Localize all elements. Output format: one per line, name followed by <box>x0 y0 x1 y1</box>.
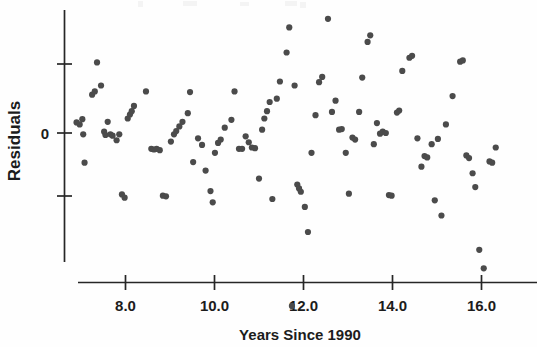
x-axis-title: Years Since 1990 <box>239 326 361 343</box>
data-point <box>187 89 193 95</box>
data-point <box>356 109 362 115</box>
data-point <box>298 189 304 195</box>
data-point <box>435 136 441 142</box>
data-point <box>207 188 213 194</box>
data-point <box>157 147 163 153</box>
data-point <box>81 160 87 166</box>
data-point <box>409 53 415 59</box>
data-point <box>472 184 478 190</box>
data-point <box>199 142 205 148</box>
y-tick-label-zero: 0 <box>41 125 49 142</box>
data-point <box>339 126 345 132</box>
data-point <box>443 121 449 127</box>
data-point <box>269 196 275 202</box>
data-point <box>246 139 252 145</box>
data-point <box>114 137 120 143</box>
data-point <box>292 82 298 88</box>
data-point <box>308 150 314 156</box>
data-point <box>449 93 455 99</box>
data-point <box>252 145 258 151</box>
data-point <box>179 119 185 125</box>
data-point <box>460 57 466 63</box>
data-point <box>277 78 283 84</box>
data-point <box>190 159 196 165</box>
data-point <box>432 197 438 203</box>
data-point <box>424 154 430 160</box>
data-point <box>218 137 224 143</box>
data-point <box>168 138 174 144</box>
data-point <box>195 135 201 141</box>
x-tick-label-8: 8.0 <box>115 297 136 314</box>
data-point <box>367 32 373 38</box>
data-point <box>470 170 476 176</box>
data-point <box>493 144 499 150</box>
data-point <box>131 103 137 109</box>
data-point <box>383 130 389 136</box>
data-point <box>116 131 122 137</box>
data-point <box>414 135 420 141</box>
x-axis: 8.0 10.0 12.0 14.0 16.0 Years Since 1990 <box>78 275 537 343</box>
data-point <box>418 164 424 170</box>
data-point <box>80 131 86 137</box>
x-tick-label-10: 10.0 <box>200 297 229 314</box>
x-tick-label-14: 14.0 <box>378 297 407 314</box>
data-point <box>374 120 380 126</box>
data-point <box>210 199 216 205</box>
data-point <box>261 115 267 121</box>
data-point <box>92 88 98 94</box>
data-point <box>489 160 495 166</box>
data-point <box>228 117 234 123</box>
data-point <box>239 146 245 152</box>
data-point <box>212 150 218 156</box>
data-point <box>481 265 487 271</box>
data-point <box>319 74 325 80</box>
data-point <box>466 155 472 161</box>
data-point <box>346 191 352 197</box>
data-point <box>256 175 262 181</box>
data-point <box>129 108 135 114</box>
data-point <box>289 303 295 309</box>
data-point <box>79 116 85 122</box>
data-point <box>359 74 365 80</box>
y-axis: 0 Residuals <box>5 10 72 262</box>
data-point <box>283 49 289 55</box>
data-point <box>329 109 335 115</box>
data-point <box>316 79 322 85</box>
data-point <box>325 16 331 22</box>
data-point <box>122 195 128 201</box>
data-point <box>396 107 402 113</box>
data-point <box>259 127 265 133</box>
data-point <box>267 99 273 105</box>
y-axis-title: Residuals <box>5 101 24 181</box>
data-point <box>343 150 349 156</box>
data-point <box>143 88 149 94</box>
data-point <box>352 137 358 143</box>
residual-plot-figure: 0 Residuals 8.0 10.0 12.0 14.0 16.0 Year… <box>0 0 537 347</box>
data-point <box>389 193 395 199</box>
data-point <box>399 68 405 74</box>
data-point <box>105 119 111 125</box>
data-point <box>429 141 435 147</box>
data-point <box>286 24 292 30</box>
data-point <box>98 82 104 88</box>
data-point <box>438 212 444 218</box>
data-points-layer <box>73 16 498 309</box>
data-point <box>243 133 249 139</box>
data-point <box>264 108 270 114</box>
data-point <box>203 168 209 174</box>
data-point <box>476 247 482 253</box>
data-point <box>222 125 228 131</box>
data-point <box>231 88 237 94</box>
data-point <box>77 121 83 127</box>
x-tick-label-16: 16.0 <box>467 297 496 314</box>
scan-artifacts <box>138 1 306 8</box>
data-point <box>371 141 377 147</box>
data-point <box>364 39 370 45</box>
data-point <box>332 98 338 104</box>
data-point <box>312 112 318 118</box>
data-point <box>305 229 311 235</box>
data-point <box>185 110 191 116</box>
data-point <box>274 96 280 102</box>
scatter-plot-canvas: 0 Residuals 8.0 10.0 12.0 14.0 16.0 Year… <box>0 0 537 347</box>
data-point <box>94 59 100 65</box>
